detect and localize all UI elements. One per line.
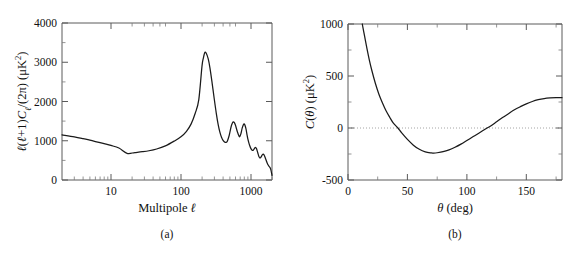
panel-b-ylabel: C(θ) (μK2): [301, 75, 317, 129]
x-ticklabel: 100: [458, 185, 476, 197]
panel-a-plot: 0 1000 2000 3000 4000 10 100 1000 Multip…: [0, 0, 290, 253]
x-ticklabel: 150: [518, 185, 536, 197]
y-ticklabel: 1000: [320, 18, 343, 30]
panel-b-xlabel: θ (deg): [437, 201, 473, 215]
x-ticklabel: 100: [172, 185, 190, 197]
panel-a-caption: (a): [161, 228, 174, 241]
y-ticklabel: 1000: [34, 135, 57, 147]
y-ticklabel: 0: [337, 122, 343, 134]
panel-b-y-ticklabels: -500 0 500 1000: [320, 18, 343, 186]
panel-b-caption: (b): [448, 228, 462, 241]
y-ticklabel: 3000: [34, 56, 57, 68]
x-ticklabel: 50: [402, 185, 414, 197]
panel-b-x-ticklabels: 0 50 100 150: [345, 185, 535, 197]
y-ticklabel: 500: [326, 70, 344, 82]
panel-a-xlabel: Multipole ℓ: [138, 201, 196, 215]
power-spectrum-curve: [62, 52, 272, 175]
y-ticklabel: 0: [51, 174, 57, 186]
panel-a-y-ticklabels: 0 1000 2000 3000 4000: [34, 17, 57, 186]
x-ticklabel: 1000: [240, 185, 263, 197]
panel-a-ylabel: ℓ(ℓ+1)Cℓ/(2π) (μK2): [13, 52, 33, 152]
panel-a-y-ticks: [62, 23, 272, 180]
panel-a: 0 1000 2000 3000 4000 10 100 1000 Multip…: [0, 0, 290, 253]
correlation-function-curve: [362, 24, 562, 153]
panel-b-plot: -500 0 500 1000 0 50 100 150 θ (deg) C(θ…: [290, 0, 581, 253]
cmb-figure: 0 1000 2000 3000 4000 10 100 1000 Multip…: [0, 0, 581, 253]
y-ticklabel: -500: [322, 174, 343, 186]
x-ticklabel: 10: [105, 185, 117, 197]
y-ticklabel: 2000: [34, 96, 57, 108]
panel-a-axes: [62, 23, 272, 180]
panel-a-x-ticks: [74, 23, 272, 180]
panel-b: -500 0 500 1000 0 50 100 150 θ (deg) C(θ…: [290, 0, 581, 253]
x-ticklabel: 0: [345, 185, 351, 197]
panel-a-x-ticklabels: 10 100 1000: [105, 185, 263, 197]
panel-b-x-ticks: [348, 24, 556, 180]
y-ticklabel: 4000: [34, 17, 57, 29]
